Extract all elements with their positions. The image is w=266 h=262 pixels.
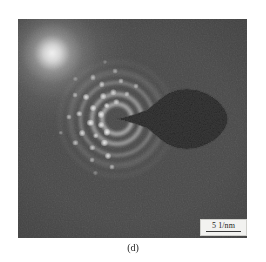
diffraction-spot (89, 157, 94, 162)
diffraction-pattern-image: 5 1/nm (18, 19, 247, 238)
diffraction-spot (79, 130, 85, 136)
figure-caption: (d) (0, 242, 266, 253)
diffraction-spot (100, 93, 106, 99)
diffraction-spot (90, 105, 96, 111)
diffraction-spot (73, 93, 78, 98)
figure-panel-d: 5 1/nm (d) (0, 0, 266, 262)
diffraction-spot (83, 94, 89, 100)
diffraction-spot (77, 111, 83, 117)
diffraction-spot (113, 69, 118, 74)
scale-bar-rule (206, 231, 241, 232)
diffraction-spot (104, 103, 110, 109)
diffraction-spot (98, 122, 104, 128)
diffraction-spot (93, 133, 99, 139)
diffraction-spot (103, 60, 107, 64)
diffraction-spot (105, 153, 111, 159)
scale-bar: 5 1/nm (200, 219, 247, 236)
beam-stopper (117, 88, 229, 150)
